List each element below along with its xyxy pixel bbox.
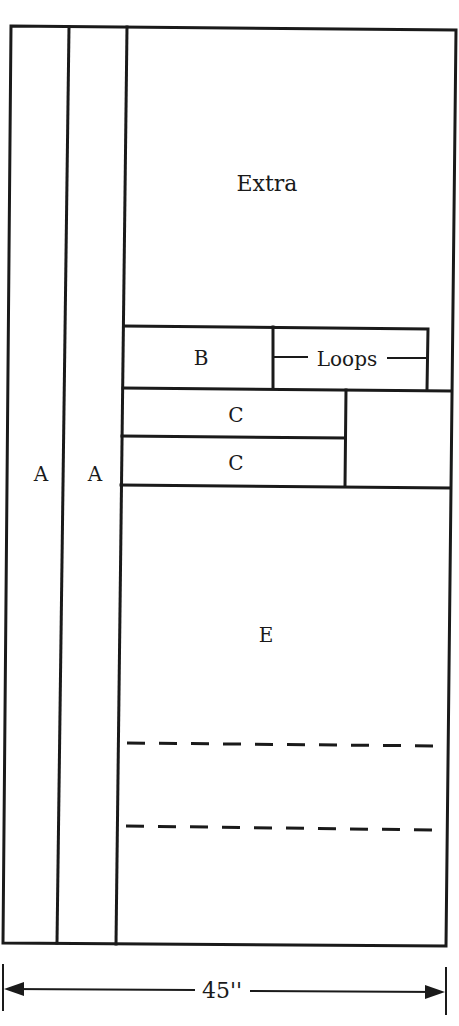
arrowhead-left-icon xyxy=(4,982,24,996)
divider-a1-a2 xyxy=(57,27,69,943)
label-a1: A xyxy=(33,462,49,486)
dimension-label: 45'' xyxy=(202,978,242,1003)
label-a2: A xyxy=(87,462,103,486)
label-c1: C xyxy=(228,403,243,427)
label-c2: C xyxy=(228,451,243,475)
label-extra: Extra xyxy=(237,171,298,196)
c-row-divider xyxy=(122,436,345,438)
c-rows-right-edge xyxy=(345,390,346,486)
dimension-line-right xyxy=(250,991,440,992)
fold-line-1 xyxy=(127,743,442,746)
label-loops: Loops xyxy=(317,347,377,371)
arrowhead-right-icon xyxy=(425,985,445,999)
label-e: E xyxy=(259,623,274,647)
dimension-line-left xyxy=(8,989,195,990)
label-b: B xyxy=(194,346,209,370)
c-row-bottom xyxy=(121,485,450,488)
fold-line-2 xyxy=(126,826,434,830)
b-row-bottom xyxy=(123,388,451,391)
cutting-layout-diagram: Extra B Loops C C A A E 45'' xyxy=(0,0,459,1026)
